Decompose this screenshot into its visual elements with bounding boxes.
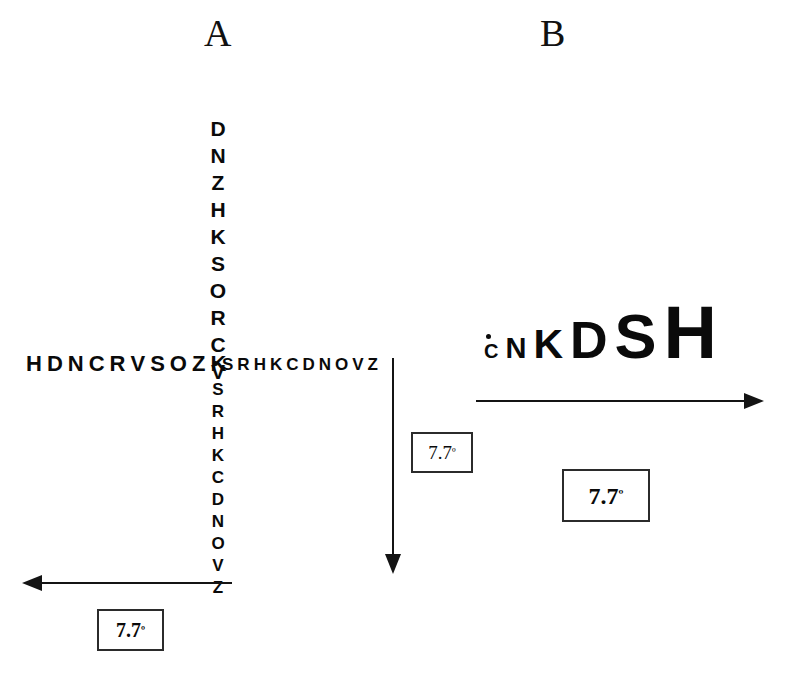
optotype-letter: D	[302, 356, 314, 373]
optotype-letter: C	[484, 341, 498, 361]
optotype-letter: H	[664, 296, 717, 370]
degree-symbol: º	[619, 488, 624, 503]
angle-label-horizontal-panel-a: 7.7º	[97, 609, 164, 651]
optotype-letter: N	[319, 356, 331, 373]
optotype-letter: S	[222, 356, 233, 373]
fixation-dot-panel-a	[213, 361, 218, 366]
optotype-letter: K	[210, 226, 225, 247]
optotype-letter: R	[210, 307, 225, 328]
optotype-letter: R	[237, 356, 249, 373]
optotype-letter: H	[26, 353, 42, 375]
left-arrow-panel-a	[20, 570, 235, 596]
angle-label-vertical-panel-a: 7.7º	[411, 432, 473, 473]
angle-value: 7.7	[589, 484, 619, 508]
optotype-letter: K	[270, 356, 282, 373]
horizontal-chart-left-letters: H D N C R V S O Z K	[26, 350, 231, 378]
progressive-chart-letters: C N K D S H	[484, 296, 724, 368]
angle-value: 7.7	[116, 620, 141, 640]
optotype-letter: D	[210, 118, 225, 139]
horizontal-chart-right-letters: S R H K C D N O V Z	[222, 352, 382, 376]
optotype-letter: Z	[368, 356, 378, 373]
optotype-letter: O	[170, 353, 187, 375]
optotype-letter: D	[47, 353, 63, 375]
optotype-letter: O	[211, 535, 224, 552]
optotype-letter: S	[211, 253, 225, 274]
optotype-letter: S	[150, 353, 165, 375]
optotype-letter: K	[212, 447, 224, 464]
optotype-letter: Z	[212, 172, 225, 193]
down-arrow-panel-a	[382, 356, 406, 578]
optotype-letter: N	[505, 334, 526, 363]
optotype-letter: R	[212, 403, 224, 420]
optotype-letter: R	[110, 353, 126, 375]
vertical-chart-upper-letters: D N Z H K S O R C V	[196, 118, 240, 388]
optotype-letter: H	[212, 425, 224, 442]
optotype-letter: N	[210, 145, 225, 166]
panel-label-a: A	[204, 14, 231, 52]
angle-label-panel-b: 7.7º	[562, 469, 650, 522]
degree-symbol: º	[452, 447, 456, 459]
optotype-letter: D	[570, 314, 608, 366]
optotype-letter: S	[212, 381, 223, 398]
vertical-chart-lower-letters: S R H K C D N O V Z	[196, 381, 240, 601]
figure-canvas: A B D N Z H K S O R C V S R H K C D N O …	[0, 0, 788, 675]
optotype-letter: N	[68, 353, 84, 375]
optotype-letter: Z	[192, 353, 205, 375]
optotype-letter: O	[335, 356, 348, 373]
optotype-letter: N	[212, 513, 224, 530]
optotype-letter: K	[533, 324, 563, 365]
optotype-letter: C	[286, 356, 298, 373]
optotype-letter: H	[254, 356, 266, 373]
optotype-letter: S	[615, 305, 657, 368]
right-arrow-panel-b	[474, 388, 766, 414]
angle-value: 7.7	[428, 443, 452, 462]
optotype-letter: V	[130, 353, 145, 375]
optotype-letter: O	[210, 280, 226, 301]
panel-label-b: B	[540, 14, 565, 52]
optotype-letter: C	[89, 353, 105, 375]
optotype-letter: D	[212, 491, 224, 508]
optotype-letter: H	[210, 199, 225, 220]
optotype-letter: C	[212, 469, 224, 486]
optotype-letter: V	[352, 356, 363, 373]
degree-symbol: º	[141, 624, 145, 636]
